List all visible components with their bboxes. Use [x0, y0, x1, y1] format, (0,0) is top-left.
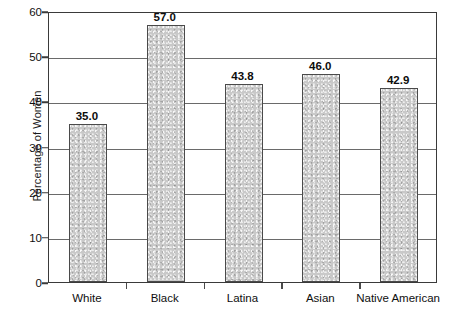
bar-chart: Percentage of Women 0102030405060 35.057…	[0, 0, 460, 315]
y-tick-label: 10	[8, 232, 42, 244]
bar-value-label: 43.8	[231, 70, 253, 82]
gridline	[49, 58, 436, 59]
x-tick-mark	[359, 283, 360, 289]
x-tick-mark	[126, 283, 127, 289]
y-tick-label: 20	[8, 187, 42, 199]
plot-area	[48, 12, 437, 283]
bar	[225, 84, 263, 282]
y-tick-label: 30	[8, 142, 42, 154]
bar-value-label: 46.0	[309, 60, 331, 72]
bar-value-label: 35.0	[76, 110, 98, 122]
x-tick-label: Black	[151, 292, 179, 304]
bar	[380, 88, 418, 282]
y-tick-label: 50	[8, 51, 42, 63]
x-tick-mark	[204, 283, 205, 289]
y-tick-label: 0	[8, 277, 42, 289]
y-tick-label: 60	[8, 6, 42, 18]
bar	[147, 25, 185, 282]
y-tick-label: 40	[8, 96, 42, 108]
bar	[69, 124, 107, 282]
x-tick-label: Latina	[227, 292, 258, 304]
x-tick-label: Native American	[356, 292, 440, 304]
bar-value-label: 57.0	[153, 11, 175, 23]
x-tick-label: White	[72, 292, 101, 304]
bar	[302, 74, 340, 282]
x-tick-label: Asian	[306, 292, 335, 304]
x-tick-mark	[281, 283, 282, 289]
bar-value-label: 42.9	[387, 74, 409, 86]
